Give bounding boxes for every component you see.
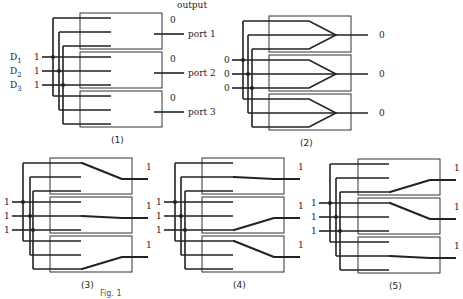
junction-dot bbox=[328, 201, 332, 205]
input-value: 1 bbox=[156, 225, 162, 235]
input-value: 1 bbox=[4, 225, 10, 235]
input-value: 1 bbox=[34, 80, 40, 90]
junction-dot bbox=[51, 55, 55, 59]
output-value: 1 bbox=[454, 202, 460, 212]
input-value: 1 bbox=[311, 212, 317, 222]
output-value: 1 bbox=[454, 163, 460, 173]
output-value: 0 bbox=[379, 30, 385, 40]
route-path-3 bbox=[81, 257, 148, 269]
input-value: 0 bbox=[224, 69, 230, 79]
output-value: 0 bbox=[170, 15, 176, 25]
subscript: 1 bbox=[17, 57, 21, 65]
input-value: 1 bbox=[34, 52, 40, 62]
input-value: 1 bbox=[311, 198, 317, 208]
route-path-3 bbox=[389, 256, 456, 258]
route-path-2 bbox=[233, 218, 300, 230]
subscript: 3 bbox=[17, 85, 21, 93]
input-value: 0 bbox=[224, 83, 230, 93]
junction-dot bbox=[334, 215, 338, 219]
panel-3: 111111(3) bbox=[4, 158, 152, 290]
output-value: 1 bbox=[298, 240, 304, 250]
port-label-3: port 3 bbox=[188, 107, 216, 117]
output-value: 0 bbox=[170, 93, 176, 103]
junction-dot bbox=[246, 72, 250, 76]
route-path-2 bbox=[389, 203, 456, 219]
junction-dot bbox=[28, 214, 32, 218]
panel-label-4: (4) bbox=[233, 280, 246, 290]
input-label-d1: D1 bbox=[10, 52, 22, 65]
route-path-2 bbox=[81, 216, 148, 218]
input-value: 1 bbox=[4, 211, 10, 221]
route-path-3 bbox=[233, 241, 300, 257]
output-value: 1 bbox=[298, 201, 304, 211]
junction-dot bbox=[250, 86, 254, 90]
junction-dot bbox=[179, 214, 183, 218]
figure-caption: Fig. 1 bbox=[100, 289, 122, 299]
output-value: 1 bbox=[146, 201, 152, 211]
output-value: 0 bbox=[170, 54, 176, 64]
output-value: 1 bbox=[454, 241, 460, 251]
output-value: 1 bbox=[146, 240, 152, 250]
junction-dot bbox=[31, 228, 35, 232]
input-value: 1 bbox=[156, 211, 162, 221]
panel-label-2: (2) bbox=[300, 138, 313, 148]
route-path-1 bbox=[81, 163, 148, 179]
input-value: 1 bbox=[156, 197, 162, 207]
junction-dot bbox=[241, 58, 245, 62]
output-value: 1 bbox=[146, 162, 152, 172]
output-value: 0 bbox=[379, 69, 385, 79]
junction-dot bbox=[183, 228, 187, 232]
input-value: 1 bbox=[4, 197, 10, 207]
output-value: 0 bbox=[379, 108, 385, 118]
junction-dot bbox=[21, 200, 25, 204]
panel-2: 000000(2) bbox=[224, 16, 385, 148]
panel-4: 111111(4) bbox=[156, 158, 304, 290]
input-value: 1 bbox=[34, 66, 40, 76]
panel-label-3: (3) bbox=[81, 280, 94, 290]
panel-label-5: (5) bbox=[389, 281, 402, 291]
panel-label-1: (1) bbox=[111, 135, 124, 145]
junction-dot bbox=[57, 69, 61, 73]
input-label-d3: D3 bbox=[10, 80, 22, 93]
junction-dot bbox=[61, 83, 65, 87]
input-label-d2: D2 bbox=[10, 66, 22, 79]
input-value: 1 bbox=[311, 226, 317, 236]
panel-1: 1D11D21D30port 10port 20port 3(1) bbox=[10, 13, 216, 145]
panel-5: 111111(5) bbox=[311, 159, 460, 291]
switch-network-figure: 1D11D21D30port 10port 20port 3(1)000000(… bbox=[0, 0, 463, 299]
input-value: 0 bbox=[224, 55, 230, 65]
junction-dot bbox=[173, 200, 177, 204]
subscript: 2 bbox=[17, 71, 21, 79]
route-path-1 bbox=[389, 180, 456, 192]
output-value: 1 bbox=[298, 162, 304, 172]
junction-dot bbox=[338, 229, 342, 233]
port-label-2: port 2 bbox=[188, 68, 216, 78]
output-header: output bbox=[177, 0, 207, 10]
route-path-1 bbox=[233, 177, 300, 179]
port-label-1: port 1 bbox=[188, 29, 216, 39]
